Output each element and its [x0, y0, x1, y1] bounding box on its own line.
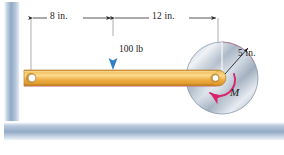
figure-canvas — [0, 0, 284, 155]
wall-vertical — [4, 2, 20, 135]
pin-wall — [26, 73, 36, 83]
dimension-label-8in: 8 in. — [50, 11, 68, 21]
force-label-100lb: 100 lb — [119, 44, 143, 54]
statics-figure: 8 in. 12 in. 100 lb 5 in. M — [0, 0, 284, 155]
dimension-label-5in: 5 in. — [238, 48, 256, 58]
dimension-label-12in: 12 in. — [152, 11, 175, 21]
floor-ground — [4, 121, 284, 141]
pin-disk-center — [210, 73, 219, 82]
moment-label: M — [230, 86, 239, 98]
bar-link — [24, 70, 226, 87]
